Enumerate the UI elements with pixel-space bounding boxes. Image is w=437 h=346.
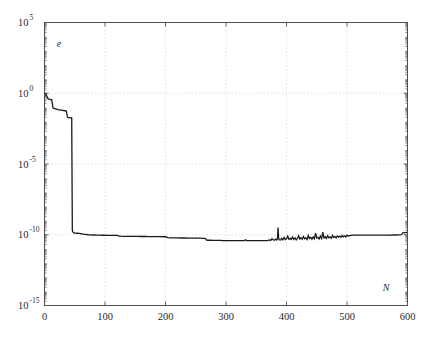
chart-background bbox=[0, 0, 437, 346]
x-axis-label: N bbox=[382, 282, 391, 293]
y-tick-mantissa: 10 bbox=[18, 88, 29, 99]
y-tick-mantissa: 10 bbox=[18, 300, 29, 311]
y-tick-mantissa: 10 bbox=[18, 229, 29, 240]
x-tick-label: 600 bbox=[400, 311, 416, 322]
y-tick-mantissa: 10 bbox=[18, 159, 29, 170]
y-tick-mantissa: 10 bbox=[18, 17, 29, 28]
y-tick-exponent: 5 bbox=[30, 13, 34, 22]
x-tick-label: 100 bbox=[97, 311, 113, 322]
y-tick-exponent: -5 bbox=[30, 155, 36, 164]
x-tick-label: 200 bbox=[158, 311, 174, 322]
x-tick-label: 0 bbox=[42, 311, 47, 322]
y-tick-exponent: 0 bbox=[30, 84, 34, 93]
x-tick-label: 500 bbox=[339, 311, 355, 322]
x-tick-label: 400 bbox=[279, 311, 295, 322]
figure-container: 0100200300400500600 10510010-510-1010-15… bbox=[0, 0, 437, 346]
x-tick-label: 300 bbox=[218, 311, 234, 322]
y-tick-exponent: -15 bbox=[30, 296, 40, 305]
y-tick-exponent: -10 bbox=[30, 225, 40, 234]
y-axis-label: e bbox=[57, 38, 62, 49]
line-chart: 0100200300400500600 10510010-510-1010-15… bbox=[0, 0, 437, 346]
